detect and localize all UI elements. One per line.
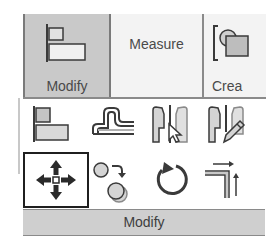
mirror-draw-axis-tool-button[interactable] bbox=[206, 104, 246, 144]
mirror-pick-axis-icon bbox=[150, 104, 190, 144]
copy-tool-button[interactable] bbox=[92, 158, 136, 204]
move-tool-button[interactable] bbox=[23, 152, 89, 208]
tab-modify-label: Modify bbox=[25, 78, 109, 94]
trim-extend-icon bbox=[203, 160, 243, 200]
panel-title-bar: Modify bbox=[23, 209, 265, 236]
rotate-tool-button[interactable] bbox=[150, 160, 190, 200]
mirror-draw-axis-icon bbox=[206, 104, 246, 144]
offset-tool-button[interactable] bbox=[90, 104, 134, 144]
tab-create-label: Crea bbox=[212, 78, 242, 94]
ribbon-divider bbox=[23, 97, 266, 99]
panel-title: Modify bbox=[23, 214, 265, 230]
align-icon bbox=[30, 104, 70, 144]
align-tool-button[interactable] bbox=[30, 104, 70, 144]
offset-icon bbox=[90, 104, 134, 144]
create-icon bbox=[210, 22, 250, 64]
modify-align-icon bbox=[45, 22, 89, 64]
copy-icon bbox=[92, 158, 136, 204]
trim-extend-tool-button[interactable] bbox=[203, 160, 243, 200]
rotate-icon bbox=[150, 160, 190, 200]
tab-measure[interactable]: Measure bbox=[111, 14, 204, 98]
mirror-pick-axis-tool-button[interactable] bbox=[150, 104, 190, 144]
tab-measure-label: Measure bbox=[111, 36, 202, 52]
move-icon bbox=[34, 158, 78, 202]
tab-modify[interactable]: Modify bbox=[23, 14, 111, 98]
panel-edge bbox=[18, 98, 20, 174]
tab-create[interactable]: Crea bbox=[204, 14, 266, 98]
